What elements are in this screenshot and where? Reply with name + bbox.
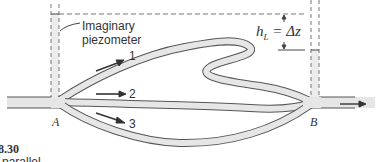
branch-label-2: 2	[129, 88, 136, 100]
branch-label-1: 1	[129, 50, 136, 62]
left-piezometer	[51, 4, 59, 100]
head-loss-equation: = Δz	[269, 23, 301, 39]
junction-a	[51, 97, 65, 108]
branch-label-3: 3	[129, 118, 136, 130]
right-piezometer	[311, 0, 319, 100]
head-loss-label: hL = Δz	[256, 24, 301, 42]
junction-label-b: B	[310, 116, 317, 128]
figure-number: 8.30	[0, 143, 19, 155]
pipe-network-graphic	[0, 0, 378, 162]
callout-leader	[60, 23, 80, 31]
branch-pipes	[60, 41, 310, 143]
flow-arrows	[96, 60, 366, 123]
junction-label-a: A	[52, 116, 59, 128]
piezometer-callout: Imaginary piezometer	[82, 19, 141, 47]
callout-line-1: Imaginary	[82, 19, 141, 33]
figure-caption: n parallel	[0, 156, 41, 162]
junction-b	[303, 97, 321, 108]
head-loss-symbol: h	[256, 23, 264, 39]
parallel-pipe-diagram: Imaginary piezometer 1 2 3 A B hL = Δz 8…	[0, 0, 378, 162]
callout-line-2: piezometer	[82, 33, 141, 47]
